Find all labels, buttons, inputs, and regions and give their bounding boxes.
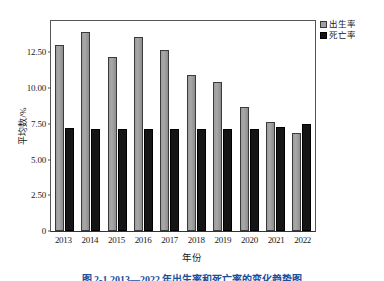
bar-death-rate-2016: [144, 129, 153, 231]
bar-group-2015: [104, 21, 130, 231]
legend-label-death-rate: 死亡率: [329, 30, 356, 41]
bar-death-rate-2013: [65, 128, 74, 231]
bar-birth-rate-2019: [213, 82, 222, 231]
bar-death-rate-2019: [223, 129, 232, 231]
y-axis-label: 平均数/%: [16, 108, 29, 145]
bar-death-rate-2015: [118, 129, 127, 231]
x-axis-tick-label-2019: 2019: [210, 233, 237, 249]
bar-series-container: [51, 21, 315, 231]
plot-area: 02.505.007.5010.0012.50: [50, 20, 316, 232]
bar-birth-rate-2022: [292, 133, 301, 231]
bar-group-2021: [262, 21, 288, 231]
bar-death-rate-2021: [276, 127, 285, 231]
figure-caption: 图 2-1 2013—2022 年出生率和死亡率的变化趋势图: [0, 271, 384, 281]
bar-birth-rate-2016: [134, 37, 143, 231]
bar-death-rate-2017: [170, 129, 179, 231]
bar-group-2022: [289, 21, 315, 231]
x-axis-tick-label-2016: 2016: [130, 233, 157, 249]
x-axis-ticks: 2013201420152016201720182019202020212022: [50, 233, 316, 249]
bar-death-rate-2014: [91, 129, 100, 231]
bar-birth-rate-2021: [266, 122, 275, 231]
legend-item-birth-rate: 出生率: [320, 19, 356, 30]
bar-birth-rate-2015: [108, 57, 117, 231]
bar-group-2014: [77, 21, 103, 231]
x-axis-tick-label-2013: 2013: [50, 233, 77, 249]
x-axis-tick-label-2022: 2022: [289, 233, 316, 249]
x-axis-label: 年份: [0, 250, 384, 264]
figure: 平均数/% 02.505.007.5010.0012.50 2013201420…: [0, 0, 384, 281]
bar-group-2020: [236, 21, 262, 231]
bar-death-rate-2022: [302, 124, 311, 231]
legend-swatch-icon-death-rate: [320, 32, 327, 39]
bar-birth-rate-2013: [55, 45, 64, 231]
bar-birth-rate-2020: [240, 107, 249, 231]
legend-label-birth-rate: 出生率: [329, 19, 356, 30]
bar-birth-rate-2018: [187, 75, 196, 231]
bar-death-rate-2020: [250, 129, 259, 231]
bar-death-rate-2018: [197, 129, 206, 231]
bar-birth-rate-2014: [81, 32, 90, 231]
bar-group-2013: [51, 21, 77, 231]
legend-item-death-rate: 死亡率: [320, 30, 356, 41]
x-axis-tick-label-2014: 2014: [77, 233, 104, 249]
legend-swatch-icon-birth-rate: [320, 21, 327, 28]
bar-group-2016: [130, 21, 156, 231]
x-axis-tick-label-2020: 2020: [236, 233, 263, 249]
legend: 出生率 死亡率: [320, 19, 356, 41]
bar-group-2017: [157, 21, 183, 231]
bar-birth-rate-2017: [160, 50, 169, 231]
x-axis-tick-label-2017: 2017: [156, 233, 183, 249]
x-axis-tick-label-2018: 2018: [183, 233, 210, 249]
x-axis-tick-label-2021: 2021: [263, 233, 290, 249]
x-axis-tick-label-2015: 2015: [103, 233, 130, 249]
bar-group-2019: [209, 21, 235, 231]
bar-group-2018: [183, 21, 209, 231]
